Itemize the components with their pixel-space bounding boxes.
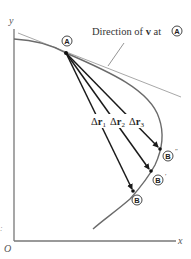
point-a-dot (64, 51, 68, 55)
point-b-prime: B ′ (149, 169, 167, 185)
prime-mark: ′ (165, 172, 167, 180)
annotation-leader-line (108, 43, 124, 66)
y-axis-label: y (8, 15, 14, 26)
displacement-arrow-2 (66, 53, 149, 169)
displacement-arrow-3 (66, 53, 158, 147)
point-b-double-prime-label: B (165, 152, 171, 161)
direction-annotation: Direction of v at (92, 26, 161, 37)
origin-label: O (4, 243, 11, 254)
point-b-prime-label: B (155, 176, 161, 185)
point-b-double-prime: B ″ (158, 147, 178, 161)
point-b-double-prime-dot (158, 147, 162, 151)
annotation-point-a-badge: A (172, 26, 182, 36)
svg-text:A: A (174, 27, 180, 36)
point-b-label: B (134, 196, 140, 205)
displacement-vectors: Δr1 Δr2 Δr3 (66, 53, 158, 189)
double-prime-mark: ″ (175, 147, 178, 155)
point-a-label: A (64, 37, 70, 46)
x-axis-label: x (177, 235, 183, 246)
axes: y x O : (0, 15, 183, 254)
point-b-dot (131, 189, 135, 193)
side-mark: : (0, 224, 3, 233)
trajectory-diagram: y x O : Direction of v at A Δr1 Δr2 Δr3 (0, 0, 191, 259)
point-b-prime-dot (149, 169, 153, 173)
